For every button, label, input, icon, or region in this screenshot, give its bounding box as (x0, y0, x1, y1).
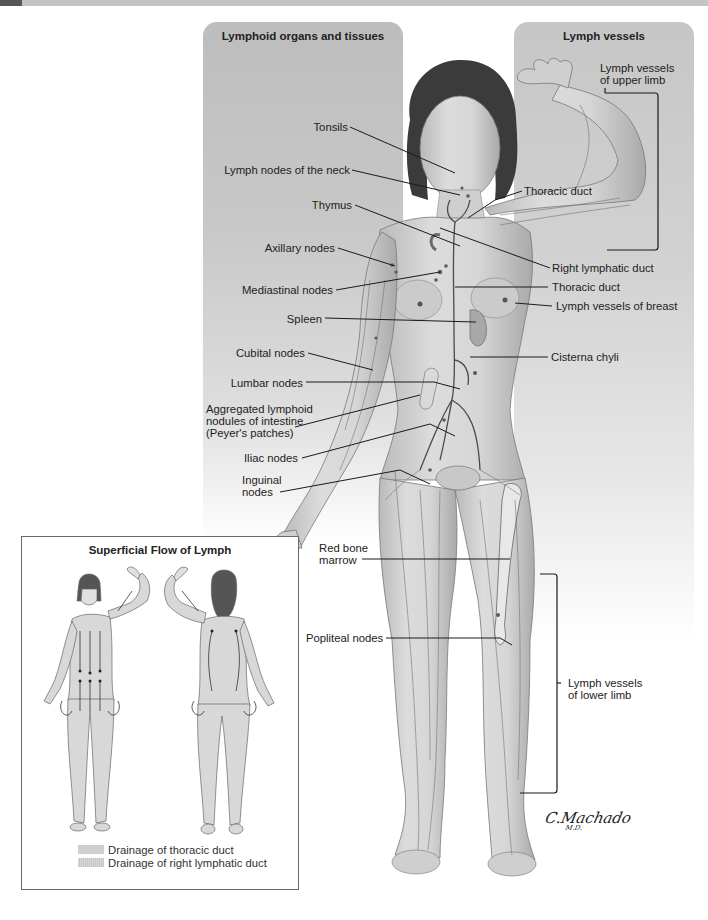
legend-swatch-thoracic (78, 845, 104, 854)
label-peyers-line1: Aggregated lymphoid (206, 403, 313, 415)
label-peyers-patches: Aggregated lymphoid nodules of intestine… (206, 403, 313, 439)
label-cubital-nodes: Cubital nodes (220, 347, 305, 359)
inset-legend: Drainage of thoracic duct Drainage of ri… (78, 843, 267, 869)
signature-name: C.Machado (544, 809, 633, 827)
label-lymph-vessels-lower-limb: Lymph vessels of lower limb (568, 677, 642, 701)
left-leg (379, 478, 457, 858)
face (420, 96, 500, 200)
legend-swatch-right-lymphatic (78, 858, 104, 867)
label-lymph-vessels-breast: Lymph vessels of breast (556, 300, 677, 312)
label-popliteal-nodes: Popliteal nodes (306, 632, 383, 644)
label-cisterna-chyli: Cisterna chyli (551, 351, 619, 363)
inset-figures (22, 561, 298, 861)
right-leg (455, 478, 535, 860)
label-right-lymphatic-duct: Right lymphatic duct (552, 262, 654, 274)
label-mediastinal-nodes: Mediastinal nodes (220, 284, 333, 296)
legend-label-thoracic: Drainage of thoracic duct (108, 844, 234, 856)
posterior-view (165, 567, 274, 834)
label-red-bone-marrow: Red bone marrow (319, 542, 368, 566)
label-thymus: Thymus (250, 199, 352, 211)
artist-signature: C.Machado M.D. (543, 809, 634, 832)
label-marrow-line2: marrow (319, 554, 368, 566)
anterior-view (44, 567, 150, 831)
label-inguinal-nodes: Inguinal nodes (242, 474, 282, 498)
label-lymph-nodes-neck: Lymph nodes of the neck (210, 164, 350, 176)
label-thoracic-duct-lower: Thoracic duct (552, 281, 620, 293)
label-inguinal-line1: Inguinal (242, 474, 282, 486)
torso (378, 217, 533, 480)
label-tonsils: Tonsils (250, 121, 348, 133)
label-axillary-nodes: Axillary nodes (220, 242, 335, 254)
label-peyers-line3: (Peyer's patches) (206, 427, 313, 439)
label-spleen: Spleen (250, 313, 322, 325)
label-marrow-line1: Red bone (319, 542, 368, 554)
label-thoracic-duct-upper: Thoracic duct (524, 185, 592, 197)
label-iliac-nodes: Iliac nodes (230, 452, 298, 464)
label-upper-limb-line2: of upper limb (600, 74, 674, 86)
label-lymph-vessels-upper-limb: Lymph vessels of upper limb (600, 62, 674, 86)
legend-item-right-lymphatic-duct: Drainage of right lymphatic duct (78, 856, 267, 869)
label-peyers-line2: nodules of intestine (206, 415, 313, 427)
label-lumbar-nodes: Lumbar nodes (220, 377, 303, 389)
legend-label-right-lymphatic: Drainage of right lymphatic duct (108, 857, 267, 869)
label-upper-limb-line1: Lymph vessels (600, 62, 674, 74)
inset-superficial-flow: Superficial Flow of Lymph (21, 536, 299, 890)
inset-title: Superficial Flow of Lymph (22, 544, 298, 556)
label-inguinal-line2: nodes (242, 486, 282, 498)
legend-item-thoracic-duct: Drainage of thoracic duct (78, 843, 267, 856)
raised-hand (517, 58, 572, 88)
label-lower-limb-line1: Lymph vessels (568, 677, 642, 689)
label-lower-limb-line2: of lower limb (568, 689, 642, 701)
